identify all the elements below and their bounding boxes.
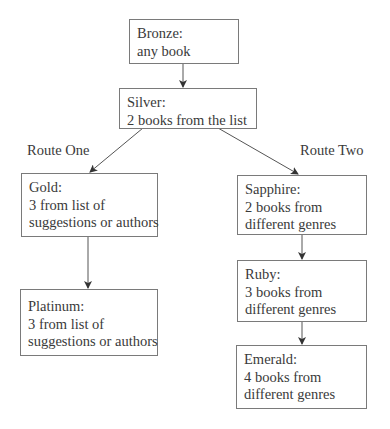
node-text: suggestions or authors	[29, 214, 150, 232]
node-title: Gold:	[29, 179, 150, 197]
node-title: Sapphire:	[245, 181, 359, 199]
node-title: Silver:	[127, 94, 249, 112]
arrow-silver-sapphire	[218, 128, 298, 174]
node-text: suggestions or authors	[28, 333, 150, 351]
node-gold: Gold: 3 from list of suggestions or auth…	[21, 173, 158, 237]
node-text: any book	[137, 43, 231, 61]
node-text: 4 books from	[244, 369, 359, 387]
node-title: Emerald:	[244, 351, 359, 369]
route-two-label: Route Two	[300, 142, 364, 159]
route-one-label: Route One	[27, 142, 89, 159]
node-title: Bronze:	[137, 25, 231, 43]
arrow-silver-gold	[90, 128, 143, 172]
node-text: 3 books from	[245, 284, 359, 302]
node-title: Platinum:	[28, 298, 150, 316]
node-text: 3 from list of	[28, 316, 150, 334]
node-platinum: Platinum: 3 from list of suggestions or …	[20, 289, 158, 356]
node-sapphire: Sapphire: 2 books from different genres	[237, 175, 367, 235]
node-ruby: Ruby: 3 books from different genres	[237, 260, 367, 322]
node-text: different genres	[245, 301, 359, 319]
node-text: different genres	[245, 216, 359, 234]
node-bronze: Bronze: any book	[129, 19, 239, 64]
node-text: 3 from list of	[29, 197, 150, 215]
node-silver: Silver: 2 books from the list	[119, 88, 257, 129]
node-title: Ruby:	[245, 266, 359, 284]
node-text: different genres	[244, 386, 359, 404]
node-emerald: Emerald: 4 books from different genres	[236, 345, 367, 409]
node-text: 2 books from	[245, 199, 359, 217]
node-text: 2 books from the list	[127, 112, 249, 130]
